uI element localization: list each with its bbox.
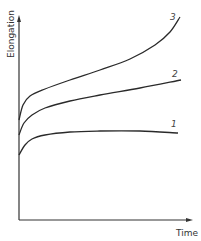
curve-3-label: 3 <box>170 12 176 22</box>
curve-2-label: 2 <box>172 69 178 79</box>
y-axis-label: Elongation <box>6 10 16 58</box>
y-axis-arrow-icon <box>17 15 21 22</box>
curve-2 <box>19 80 181 135</box>
curve-1-label: 1 <box>171 119 177 129</box>
x-axis-label: Time <box>175 228 198 238</box>
curve-1 <box>19 131 178 155</box>
creep-chart: Elongation Time 1 2 3 <box>0 0 201 241</box>
curve-3 <box>19 17 180 120</box>
x-axis-arrow-icon <box>186 218 193 222</box>
